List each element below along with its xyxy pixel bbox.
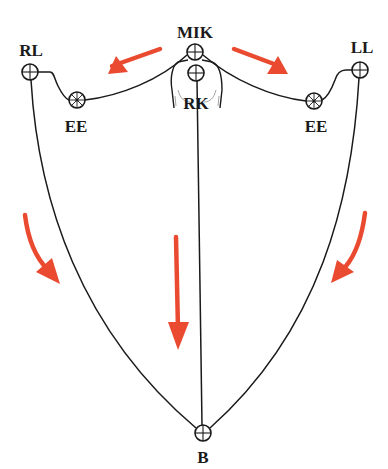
node-rl: RL	[19, 41, 43, 80]
crosshair-circle-icon	[22, 64, 38, 80]
edge-mik-ee-right	[203, 55, 306, 101]
spoked-circle-icon	[69, 92, 85, 108]
edge-rk-b	[197, 80, 202, 425]
label-ee-right: EE	[305, 117, 328, 136]
crosshair-circle-icon	[188, 65, 204, 81]
node-mik: MIK	[177, 23, 214, 60]
crosshair-circle-icon	[195, 425, 211, 441]
spoked-circle-icon	[306, 93, 322, 109]
edge-rl-b	[31, 80, 196, 428]
edge-ll-b	[210, 78, 359, 428]
label-b: B	[197, 448, 208, 467]
label-ll: LL	[351, 38, 374, 57]
node-ll: LL	[351, 38, 374, 78]
shield-diagram: MIK RK RL LL EE EE B	[0, 0, 388, 469]
node-ee-left: EE	[65, 92, 88, 136]
arrow-up-right	[234, 49, 288, 74]
node-b: B	[195, 425, 211, 467]
arrow-up-left	[108, 49, 160, 74]
edge-rl-ee-left	[38, 72, 69, 100]
edge-ee-right-ll	[322, 70, 352, 100]
label-mik: MIK	[177, 23, 214, 42]
crosshair-circle-icon	[187, 44, 203, 60]
arrow-center-down	[168, 237, 189, 350]
label-ee-left: EE	[65, 117, 88, 136]
arrow-left-down	[25, 215, 60, 284]
label-rl: RL	[19, 41, 43, 60]
crosshair-circle-icon	[352, 62, 368, 78]
label-rk: RK	[183, 94, 209, 113]
